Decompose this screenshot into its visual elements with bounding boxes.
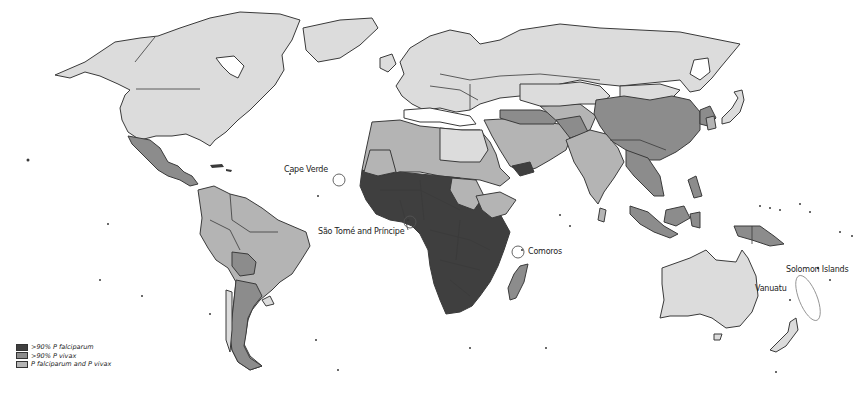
region-greenland [303,18,378,62]
region-japan [722,90,744,124]
legend-label: >90% P falciparum [31,343,94,351]
legend-item-falciparum: >90% P falciparum [16,343,111,351]
callout-solomon-islands: Solomon Islands [786,265,848,274]
legend-swatch-vivax [16,352,28,359]
region-australia [660,250,758,328]
callout-comoros: Comoros [528,247,562,256]
comoros-marker [512,246,524,258]
region-korea [706,116,716,130]
legend-label: P falciparum and P vivax [31,360,111,368]
region-madagascar [508,264,528,300]
legend-swatch-falciparum [16,344,28,351]
region-new-zealand [770,318,798,352]
cape-verde-marker [333,174,345,186]
legend-label: >90% P vivax [31,352,76,360]
legend-item-vivax: >90% P vivax [16,352,111,360]
region-caribbean [210,164,232,172]
region-tasmania [714,334,722,340]
world-malaria-map: Cape Verde São Tomé and Príncipe Comoros… [0,0,864,394]
legend-item-mixed: P falciparum and P vivax [16,360,111,368]
callout-vanuatu: Vanuatu [755,284,787,293]
region-central-america [128,136,198,186]
legend: >90% P falciparum >90% P vivax P falcipa… [16,343,111,369]
legend-swatch-mixed [16,361,28,368]
region-south-america [198,186,310,370]
region-north-america [55,12,300,146]
callout-cape-verde: Cape Verde [284,165,328,174]
world-map-svg [0,0,864,394]
region-asia-endemic [566,96,784,246]
callout-sao-tome: São Tomé and Príncipe [318,227,404,236]
solomon-vanuatu-marker [791,272,826,323]
